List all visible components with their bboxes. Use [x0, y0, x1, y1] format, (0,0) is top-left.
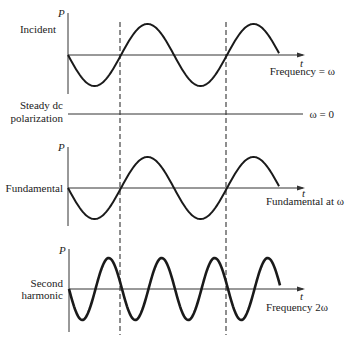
- panel-second-harmonic: P Second harmonic t Frequency 2ω: [21, 244, 328, 332]
- fundamental-frequency-note: Fundamental at ω: [266, 195, 344, 207]
- axis-label-p: P: [58, 244, 66, 256]
- panel-fundamental: P Fundamental t Fundamental at ω: [6, 141, 344, 226]
- incident-frequency-note: Frequency = ω: [270, 65, 335, 77]
- panel-label-dc-line2: polarization: [10, 112, 63, 124]
- panel-label-incident: Incident: [20, 23, 56, 35]
- panel-steady-dc: Steady dc polarization ω = 0: [10, 99, 334, 124]
- nonlinear-polarization-diagram: P Incident t Frequency = ω Steady dc pol…: [0, 0, 349, 341]
- panel-label-dc-line1: Steady dc: [20, 99, 63, 111]
- axis-label-p: P: [57, 7, 65, 19]
- dc-frequency-note: ω = 0: [310, 108, 335, 120]
- panel-label-fundamental: Fundamental: [6, 182, 63, 194]
- panel-incident: P Incident t Frequency = ω: [20, 7, 335, 94]
- second-harmonic-frequency-note: Frequency 2ω: [266, 301, 328, 313]
- axis-label-p: P: [57, 141, 65, 153]
- panel-label-second-line1: Second: [31, 277, 64, 289]
- panel-label-second-line2: harmonic: [21, 289, 63, 301]
- diagram-canvas: P Incident t Frequency = ω Steady dc pol…: [0, 0, 349, 341]
